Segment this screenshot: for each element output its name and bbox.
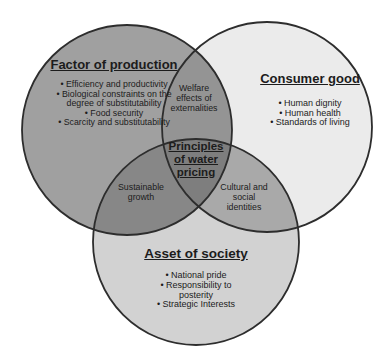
- text-line: identities: [204, 203, 284, 213]
- consumer-society-overlap-label: Cultural andsocialidentities: [204, 183, 284, 212]
- bullet-item: Scarcity and substitutability: [30, 118, 198, 128]
- text-line: of water: [155, 153, 237, 166]
- center-title: Principlesof waterpricing: [155, 140, 237, 178]
- production-title: Factor of production: [30, 57, 198, 72]
- bullet-item: Standards of living: [247, 118, 373, 128]
- society-items: National prideResponsibility toposterity…: [106, 271, 286, 310]
- bullet-item: Strategic Interests: [106, 300, 286, 310]
- production-society-overlap-label: Sustainablegrowth: [101, 183, 181, 203]
- consumer-title: Consumer good: [247, 71, 373, 86]
- consumer-items: Human dignityHuman healthStandards of li…: [247, 99, 373, 128]
- venn-diagram-figure: Factor of production Efficiency and prod…: [0, 0, 383, 362]
- text-line: pricing: [155, 166, 237, 179]
- text-line: growth: [101, 193, 181, 203]
- society-section: Asset of society National prideResponsib…: [106, 246, 286, 310]
- text-line: Principles: [155, 140, 237, 153]
- society-title: Asset of society: [106, 246, 286, 262]
- production-consumer-overlap-label: Welfareeffects ofexternalities: [154, 84, 234, 113]
- consumer-section: Consumer good Human dignityHuman healthS…: [247, 71, 373, 128]
- text-line: externalities: [154, 104, 234, 114]
